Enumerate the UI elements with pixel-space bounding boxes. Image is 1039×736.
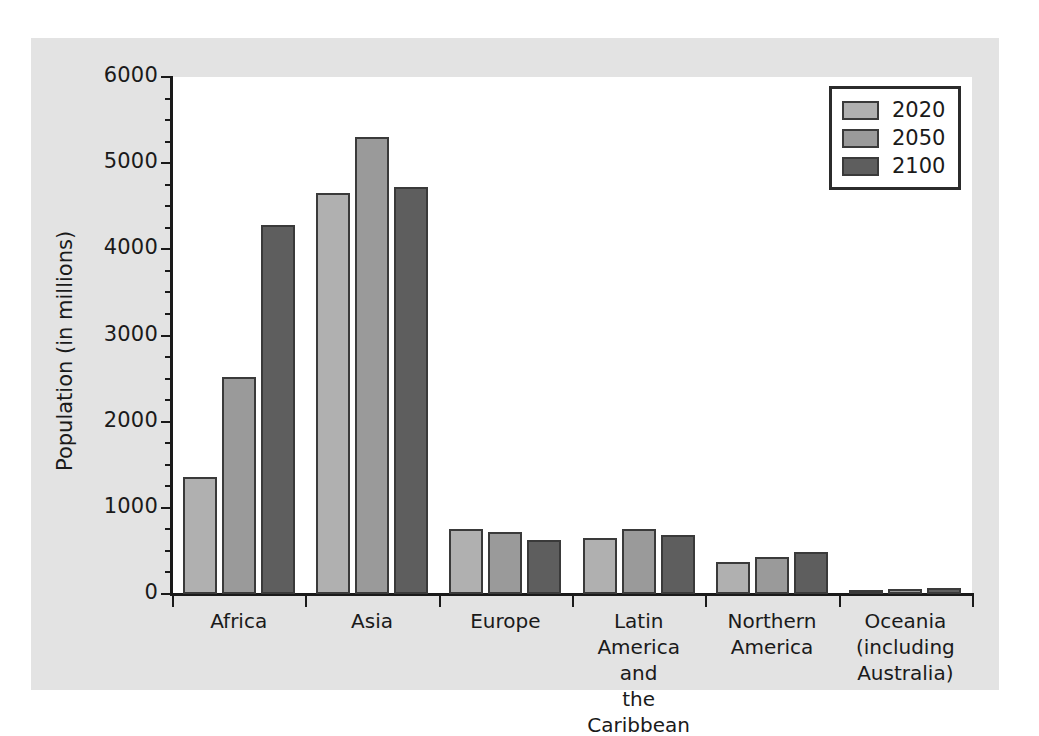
y-tick-minor bbox=[165, 485, 172, 487]
legend-item-2020: 2020 bbox=[842, 96, 945, 124]
bar-asia-2100 bbox=[394, 187, 428, 594]
y-tick-label: 0 bbox=[48, 580, 158, 604]
bar-africa-2050 bbox=[222, 377, 256, 594]
x-tick bbox=[439, 596, 441, 607]
y-tick-minor bbox=[165, 464, 172, 466]
x-tick-label: Oceania (including Australia) bbox=[839, 608, 972, 686]
y-tick-minor bbox=[165, 356, 172, 358]
x-tick bbox=[572, 596, 574, 607]
y-tick-major bbox=[161, 335, 172, 337]
bar-africa-2020 bbox=[183, 477, 217, 594]
x-tick bbox=[172, 596, 174, 607]
y-tick-major bbox=[161, 593, 172, 595]
y-tick-minor bbox=[165, 571, 172, 573]
y-tick-minor bbox=[165, 550, 172, 552]
y-tick-major bbox=[161, 76, 172, 78]
y-tick-minor bbox=[165, 270, 172, 272]
y-tick-minor bbox=[165, 378, 172, 380]
bar-latin america-2020 bbox=[583, 538, 617, 594]
legend: 202020502100 bbox=[829, 86, 961, 190]
bar-asia-2020 bbox=[316, 193, 350, 594]
y-tick-minor bbox=[165, 184, 172, 186]
x-tick bbox=[972, 596, 974, 607]
y-tick-minor bbox=[165, 528, 172, 530]
x-tick-label: Asia bbox=[305, 608, 438, 634]
y-tick-major bbox=[161, 507, 172, 509]
y-tick-minor bbox=[165, 313, 172, 315]
legend-label: 2050 bbox=[892, 126, 945, 150]
legend-swatch-icon bbox=[842, 129, 879, 148]
x-tick-label: Africa bbox=[172, 608, 305, 634]
y-tick-major bbox=[161, 162, 172, 164]
y-tick-label: 1000 bbox=[48, 494, 158, 518]
y-tick-label: 6000 bbox=[48, 63, 158, 87]
legend-label: 2100 bbox=[892, 154, 945, 178]
figure-panel: 0100020003000400050006000 Population (in… bbox=[31, 38, 999, 690]
y-tick-minor bbox=[165, 442, 172, 444]
y-tick-minor bbox=[165, 205, 172, 207]
bar-latin america-2050 bbox=[622, 529, 656, 594]
legend-swatch-icon bbox=[842, 101, 879, 120]
bar-asia-2050 bbox=[355, 137, 389, 594]
legend-label: 2020 bbox=[892, 98, 945, 122]
y-tick-minor bbox=[165, 399, 172, 401]
y-tick-minor bbox=[165, 141, 172, 143]
y-tick-major bbox=[161, 248, 172, 250]
bar-northern-2050 bbox=[755, 557, 789, 594]
x-tick-label: Latin America and the Caribbean bbox=[572, 608, 705, 736]
bar-oceania-2050 bbox=[888, 589, 922, 594]
bar-northern-2020 bbox=[716, 562, 750, 594]
y-axis-label: Population (in millions) bbox=[53, 230, 77, 470]
legend-item-2100: 2100 bbox=[842, 152, 945, 180]
bar-oceania-2100 bbox=[927, 588, 961, 594]
bar-oceania-2020 bbox=[849, 590, 883, 594]
bar-europe-2020 bbox=[449, 529, 483, 594]
bar-europe-2050 bbox=[488, 532, 522, 594]
y-tick-minor bbox=[165, 291, 172, 293]
y-tick-minor bbox=[165, 227, 172, 229]
x-tick bbox=[705, 596, 707, 607]
bar-europe-2100 bbox=[527, 540, 561, 594]
legend-item-2050: 2050 bbox=[842, 124, 945, 152]
bar-africa-2100 bbox=[261, 225, 295, 594]
y-tick-minor bbox=[165, 119, 172, 121]
x-tick-label: Europe bbox=[439, 608, 572, 634]
bar-northern-2100 bbox=[794, 552, 828, 594]
y-tick-minor bbox=[165, 98, 172, 100]
x-tick-label: Northern America bbox=[705, 608, 838, 660]
x-tick bbox=[305, 596, 307, 607]
y-tick-major bbox=[161, 421, 172, 423]
bar-latin america-2100 bbox=[661, 535, 695, 594]
y-tick-label: 5000 bbox=[48, 149, 158, 173]
legend-swatch-icon bbox=[842, 157, 879, 176]
x-tick bbox=[839, 596, 841, 607]
